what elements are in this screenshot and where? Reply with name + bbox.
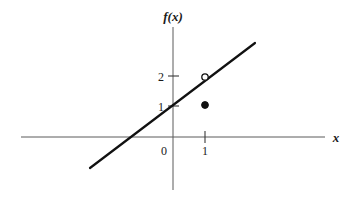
y-tick-label-2: 2 — [158, 70, 164, 84]
function-graph-figure: f(x) x 2 1 0 1 — [0, 0, 353, 198]
figure-background — [0, 0, 353, 198]
filled-dot-marker — [202, 102, 209, 109]
x-axis-label: x — [332, 130, 340, 145]
x-tick-label-1: 1 — [202, 144, 208, 158]
open-circle-marker — [202, 74, 208, 80]
origin-label: 0 — [161, 144, 167, 158]
y-tick-label-1: 1 — [158, 100, 164, 114]
y-axis-label: f(x) — [163, 9, 183, 24]
